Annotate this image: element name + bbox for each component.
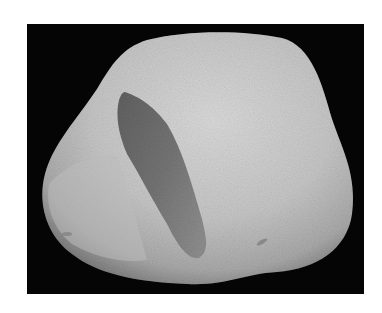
pebble-photo xyxy=(27,24,364,294)
photo-frame xyxy=(27,24,364,294)
shadow-spot xyxy=(62,232,72,236)
